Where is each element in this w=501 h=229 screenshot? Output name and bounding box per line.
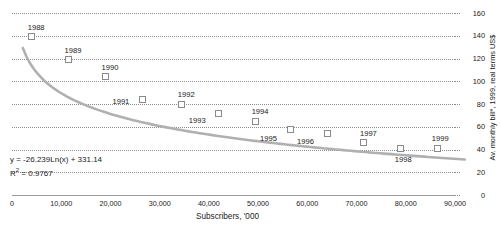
data-point-label: 1992 bbox=[178, 91, 195, 99]
r-squared-line: R2 = 0.9767 bbox=[10, 166, 102, 179]
x-tick-label: 60,000 bbox=[282, 199, 332, 208]
regression-annotation: y = -26.239Ln(x) + 331.14 R2 = 0.9767 bbox=[10, 155, 102, 179]
data-point-label: 1999 bbox=[432, 135, 449, 143]
y-tick-label: 0 bbox=[459, 192, 485, 199]
data-point-marker bbox=[397, 145, 404, 152]
data-point-label: 1996 bbox=[297, 138, 314, 146]
data-point-label: 1990 bbox=[102, 64, 119, 72]
data-point-label: 1991 bbox=[112, 98, 129, 106]
data-point-marker bbox=[102, 73, 109, 80]
x-axis-title: Subscribers, '000 bbox=[0, 212, 455, 221]
data-point-label: 1994 bbox=[252, 108, 269, 116]
data-point-marker bbox=[65, 56, 72, 63]
y-axis-title: Av. monthly bill*, 1999, real terms US$ bbox=[486, 0, 500, 195]
y-tick-label: 80 bbox=[459, 101, 485, 108]
data-point-label: 1988 bbox=[28, 24, 45, 32]
x-tick-label: 30,000 bbox=[135, 199, 185, 208]
data-point-marker bbox=[139, 96, 146, 103]
data-point-marker bbox=[360, 139, 367, 146]
y-tick-label: 140 bbox=[459, 32, 485, 39]
r-squared-value: = 0.9767 bbox=[21, 168, 52, 177]
y-tick-label: 20 bbox=[459, 169, 485, 176]
data-point-marker bbox=[28, 33, 35, 40]
r-squared-exponent: 2 bbox=[16, 167, 19, 173]
x-tick-label: 50,000 bbox=[233, 199, 283, 208]
chart-container: 1988198919901991199219931994199519961997… bbox=[0, 0, 501, 229]
data-point-marker bbox=[252, 118, 259, 125]
x-axis-line bbox=[12, 195, 455, 196]
data-point-marker bbox=[178, 101, 185, 108]
y-tick-label: 40 bbox=[459, 146, 485, 153]
data-point-label: 1993 bbox=[189, 117, 206, 125]
y-tick-label: 160 bbox=[459, 10, 485, 17]
data-point-marker bbox=[324, 130, 331, 137]
data-point-label: 1995 bbox=[260, 135, 277, 143]
x-tick-label: 70,000 bbox=[332, 199, 382, 208]
data-point-label: 1989 bbox=[65, 47, 82, 55]
data-point-marker bbox=[434, 145, 441, 152]
x-tick-label: 40,000 bbox=[184, 199, 234, 208]
data-point-label: 1998 bbox=[395, 156, 412, 164]
x-tick-label: 90,000 bbox=[430, 199, 480, 208]
y-tick-label: 60 bbox=[459, 123, 485, 130]
y-tick-label: 100 bbox=[459, 78, 485, 85]
x-tick-label: 10,000 bbox=[36, 199, 86, 208]
y-tick-label: 120 bbox=[459, 55, 485, 62]
x-tick-label: 80,000 bbox=[381, 199, 431, 208]
x-tick-label: 0 bbox=[0, 199, 37, 208]
trendline-path bbox=[23, 48, 465, 159]
data-point-label: 1997 bbox=[360, 130, 377, 138]
regression-equation: y = -26.239Ln(x) + 331.14 bbox=[10, 155, 102, 166]
data-point-marker bbox=[287, 126, 294, 133]
data-point-marker bbox=[215, 110, 222, 117]
y-axis-title-text: Av. monthly bill*, 1999, real terms US$ bbox=[489, 35, 498, 161]
x-tick-label: 20,000 bbox=[85, 199, 135, 208]
